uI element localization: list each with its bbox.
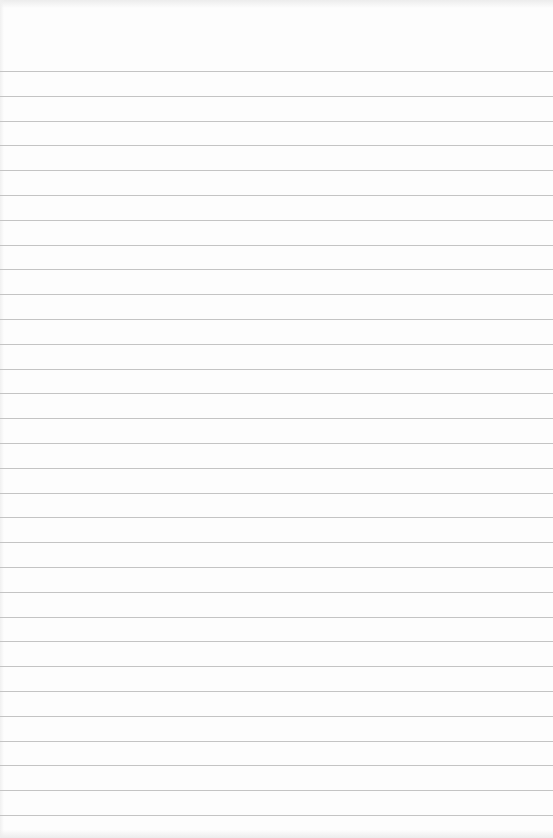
ruled-line — [0, 493, 553, 494]
ruled-line — [0, 691, 553, 692]
ruled-line — [0, 617, 553, 618]
ruled-line — [0, 220, 553, 221]
ruled-line — [0, 517, 553, 518]
ruled-line — [0, 741, 553, 742]
ruled-line — [0, 542, 553, 543]
ruled-line — [0, 170, 553, 171]
ruled-line — [0, 641, 553, 642]
ruled-line — [0, 344, 553, 345]
paper-left-edge — [0, 0, 4, 838]
ruled-line — [0, 468, 553, 469]
ruled-line — [0, 145, 553, 146]
ruled-line — [0, 567, 553, 568]
ruled-line — [0, 393, 553, 394]
ruled-line — [0, 592, 553, 593]
ruled-line — [0, 195, 553, 196]
ruled-line — [0, 716, 553, 717]
ruled-line — [0, 294, 553, 295]
ruled-line — [0, 815, 553, 816]
ruled-line — [0, 418, 553, 419]
ruled-line — [0, 443, 553, 444]
ruled-line — [0, 269, 553, 270]
ruled-line — [0, 71, 553, 72]
ruled-line — [0, 666, 553, 667]
ruled-line — [0, 369, 553, 370]
ruled-line — [0, 121, 553, 122]
ruled-line — [0, 319, 553, 320]
ruled-line — [0, 790, 553, 791]
ruled-line — [0, 245, 553, 246]
ruled-line — [0, 96, 553, 97]
paper-top-edge — [0, 0, 553, 8]
paper-bottom-edge — [0, 830, 553, 838]
ruled-line — [0, 765, 553, 766]
